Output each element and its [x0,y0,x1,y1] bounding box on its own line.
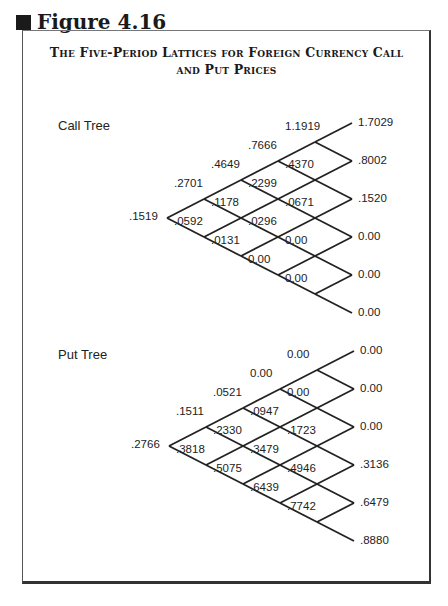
node-value: 0.00 [285,234,307,246]
node-value: .6479 [360,496,389,508]
node-value: .7742 [287,500,316,512]
lattice-lines [0,0,448,606]
node-value: .2766 [131,438,160,450]
node-value: 0.00 [358,230,380,242]
node-value: 0.00 [250,367,272,379]
node-value: 0.00 [248,253,270,265]
node-value: .1178 [211,196,239,208]
node-value: 0.00 [360,382,382,394]
node-value: .4946 [287,462,316,474]
node-value: 0.00 [287,348,309,360]
node-value: .0296 [248,215,277,227]
node-value: 1.7029 [358,116,393,128]
node-value: .0521 [213,386,242,398]
node-value: .1511 [176,405,204,417]
node-value: .1723 [287,424,316,436]
node-value: .7666 [248,139,277,151]
node-value: 0.00 [358,268,380,280]
node-value: .2701 [174,177,203,189]
node-value: .3818 [176,443,205,455]
node-value: 0.00 [287,386,309,398]
node-value: .4649 [211,158,240,170]
node-value: .0671 [285,196,314,208]
node-value: .2299 [248,177,277,189]
node-value: 0.00 [360,420,382,432]
node-value: .1520 [358,192,387,204]
node-value: .5075 [213,462,242,474]
node-value: .6439 [250,481,279,493]
node-value: .3479 [250,443,279,455]
node-value: 1.1919 [285,120,320,132]
node-value: 0.00 [360,344,382,356]
node-value: .8880 [360,534,389,546]
node-value: .2330 [213,424,242,436]
node-value: 0.00 [358,306,380,318]
node-value: .8002 [358,154,387,166]
node-value: 0.00 [285,272,307,284]
node-value: .1519 [129,210,158,222]
node-value: .0131 [211,234,240,246]
node-value: .0592 [174,215,203,227]
node-value: .3136 [360,458,389,470]
node-value: .4370 [285,158,314,170]
node-value: .0947 [250,405,279,417]
